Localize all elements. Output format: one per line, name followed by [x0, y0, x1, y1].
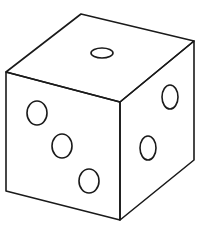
pip-left-2	[52, 134, 72, 158]
pip-right-2	[140, 136, 156, 160]
left-face	[6, 72, 120, 220]
pip-left-1	[27, 101, 47, 125]
pip-right-1	[162, 85, 178, 109]
right-face	[120, 41, 194, 220]
die-drawing	[0, 0, 208, 232]
pip-left-3	[79, 169, 99, 193]
pip-top	[91, 48, 113, 58]
